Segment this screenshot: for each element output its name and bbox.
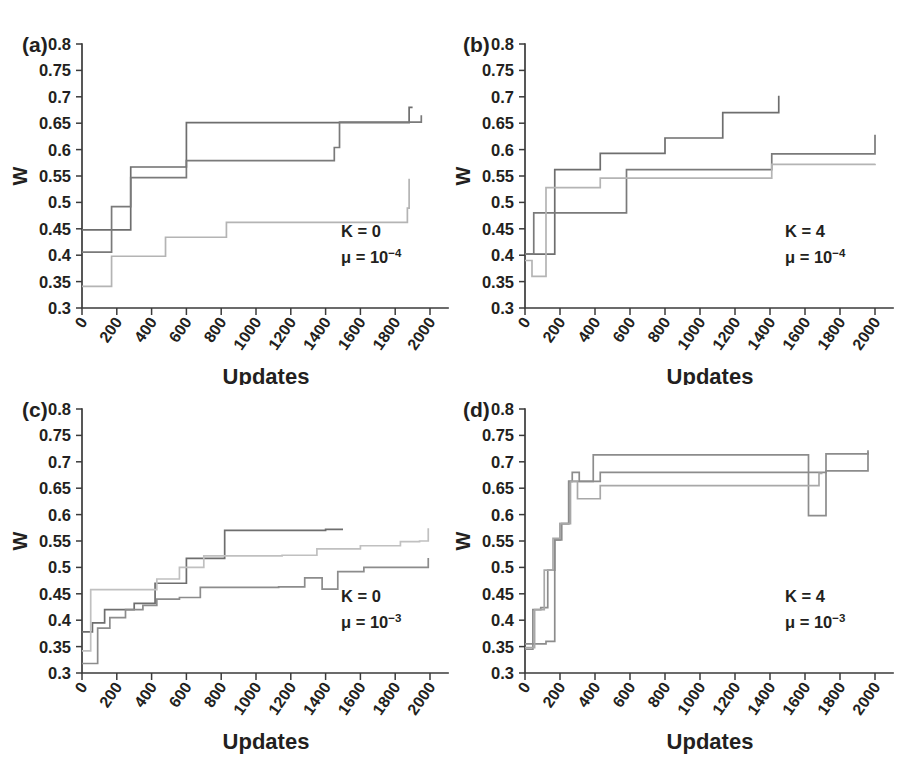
x-tick-label: 600: [166, 314, 195, 346]
y-axis-title: W: [9, 531, 31, 550]
y-tick-label: 0.55: [482, 167, 514, 185]
x-tick-label: 400: [574, 314, 603, 346]
y-tick-label: 0.55: [39, 532, 71, 550]
y-tick-label: 0.65: [482, 479, 514, 497]
x-tick-label: 1800: [814, 679, 848, 718]
y-tick-label: 0.4: [48, 246, 72, 264]
y-tick-label: 0.55: [39, 167, 71, 185]
chart-svg-b: (b) 0.80.750.70.650.60.550.50.450.40.350…: [455, 0, 909, 385]
y-tick-label: 0.75: [39, 426, 71, 444]
y-tick-label: 0.8: [491, 400, 514, 418]
axis-group-c: 0.80.750.70.650.60.550.50.450.40.350.302…: [9, 400, 448, 754]
x-tick-label: 0: [514, 314, 533, 331]
y-tick-label: 0.5: [48, 558, 71, 576]
y-tick-label: 0.75: [482, 426, 514, 444]
y-tick-label: 0.8: [491, 35, 514, 53]
panel-label-b: (b): [463, 33, 490, 56]
x-tick-label: 1000: [230, 314, 264, 353]
x-tick-label: 200: [539, 314, 568, 346]
x-tick-label: 1200: [265, 314, 299, 353]
x-tick-label: 0: [71, 679, 90, 696]
chart-panel-b: (b) 0.80.750.70.650.60.550.50.450.40.350…: [455, 0, 909, 385]
x-tick-label: 0: [71, 314, 90, 331]
y-tick-label: 0.6: [491, 141, 514, 159]
y-tick-label: 0.35: [39, 638, 71, 656]
annotation-k-c: K = 0: [341, 587, 381, 605]
chart-panel-c: (c) 0.80.750.70.650.60.550.50.450.40.350…: [0, 385, 455, 775]
x-tick-label: 1600: [779, 679, 813, 718]
x-tick-label: 1400: [744, 314, 778, 353]
panel-label-a: (a): [22, 33, 48, 56]
panel-label-d: (d): [463, 398, 490, 421]
chart-series-line: [525, 473, 823, 647]
x-tick-label: 600: [166, 679, 195, 711]
chart-series-line: [82, 529, 343, 631]
y-tick-label: 0.5: [491, 193, 514, 211]
chart-series-line: [82, 107, 413, 230]
x-axis-title: Updates: [223, 729, 310, 754]
x-tick-label: 1800: [814, 314, 848, 353]
x-tick-label: 400: [574, 679, 603, 711]
axis-spines: [525, 44, 893, 308]
x-tick-label: 2000: [849, 314, 883, 353]
x-axis-title: Updates: [667, 729, 754, 754]
y-tick-label: 0.8: [48, 400, 71, 418]
annotation-mu-b: μ = 10−4: [785, 247, 846, 266]
figure-grid: (a) 0.80.750.70.650.60.550.50.450.40.350…: [0, 0, 909, 775]
x-tick-label: 2000: [404, 679, 438, 718]
x-tick-label: 600: [609, 314, 638, 346]
y-tick-label: 0.75: [482, 61, 514, 79]
y-tick-label: 0.4: [48, 611, 72, 629]
x-tick-label: 600: [609, 679, 638, 711]
annotation-group-c: K = 0 μ = 10−3: [341, 587, 401, 631]
chart-panel-d: (d) 0.80.750.70.650.60.550.50.450.40.350…: [455, 385, 909, 775]
y-tick-label: 0.45: [482, 585, 514, 603]
panel-label-group-b: (b): [463, 33, 490, 56]
panel-label-c: (c): [22, 398, 48, 421]
chart-svg-c: (c) 0.80.750.70.650.60.550.50.450.40.350…: [0, 385, 455, 775]
chart-panel-a: (a) 0.80.750.70.650.60.550.50.450.40.350…: [0, 0, 455, 385]
axis-group-a: 0.80.750.70.650.60.550.50.450.40.350.302…: [9, 35, 448, 385]
x-tick-label: 1600: [779, 314, 813, 353]
y-axis-title: W: [455, 166, 474, 185]
annotation-k-a: K = 0: [341, 222, 381, 240]
y-tick-label: 0.7: [48, 88, 71, 106]
y-tick-label: 0.65: [39, 114, 71, 132]
x-tick-label: 1400: [300, 679, 334, 718]
y-tick-label: 0.7: [491, 453, 514, 471]
y-axis-title: W: [9, 166, 31, 185]
annotation-k-b: K = 4: [785, 222, 826, 240]
axis-group-b: 0.80.750.70.650.60.550.50.450.40.350.302…: [455, 35, 893, 385]
y-tick-label: 0.5: [491, 558, 514, 576]
y-tick-label: 0.75: [39, 61, 71, 79]
y-tick-label: 0.6: [48, 506, 71, 524]
chart-series-line: [525, 96, 779, 254]
x-tick-label: 800: [644, 314, 673, 346]
y-tick-label: 0.55: [482, 532, 514, 550]
annotation-group-a: K = 0 μ = 10−4: [341, 222, 402, 266]
annotation-group-d: K = 4 μ = 10−3: [785, 587, 845, 631]
x-tick-label: 1200: [709, 314, 743, 353]
y-tick-label: 0.7: [48, 453, 71, 471]
y-tick-label: 0.6: [491, 506, 514, 524]
x-tick-label: 1000: [230, 679, 264, 718]
y-tick-label: 0.45: [39, 220, 71, 238]
annotation-mu-d: μ = 10−3: [785, 612, 845, 631]
y-tick-label: 0.65: [482, 114, 514, 132]
axis-spines: [525, 409, 893, 673]
x-tick-label: 400: [131, 679, 160, 711]
x-tick-label: 1800: [369, 679, 403, 718]
axis-spines: [82, 409, 448, 673]
x-tick-label: 1000: [674, 314, 708, 353]
annotation-group-b: K = 4 μ = 10−4: [785, 222, 846, 266]
x-tick-label: 1200: [709, 679, 743, 718]
axis-spines: [82, 44, 448, 308]
y-tick-label: 0.6: [48, 141, 71, 159]
x-tick-label: 0: [514, 679, 533, 696]
y-tick-label: 0.4: [491, 246, 515, 264]
panel-label-group-d: (d): [463, 398, 490, 421]
chart-svg-d: (d) 0.80.750.70.650.60.550.50.450.40.350…: [455, 385, 909, 775]
y-tick-label: 0.3: [491, 299, 514, 317]
x-tick-label: 1600: [335, 314, 369, 353]
y-tick-label: 0.35: [482, 638, 514, 656]
